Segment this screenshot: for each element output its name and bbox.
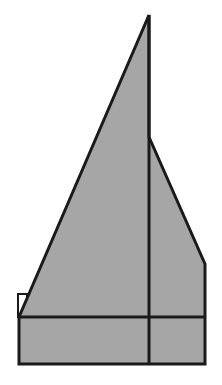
geometric-diagram	[0, 0, 222, 385]
